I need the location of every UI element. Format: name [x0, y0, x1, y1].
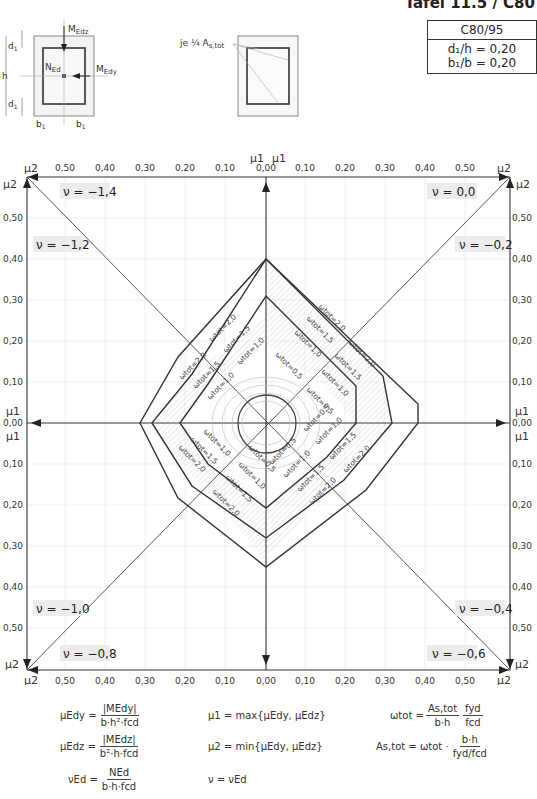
svg-text:0,40: 0,40 [512, 254, 532, 264]
concrete-class: C80/95 [428, 21, 536, 40]
svg-text:b1: b1 [76, 119, 86, 130]
nu-label-bottom-left-outer: ν = −0,8 [63, 647, 117, 661]
right-axis-ticks: 0,50 0,40 0,30 0,20 0,10 0,00 0,10 0,20 … [512, 213, 532, 633]
svg-text:0,20: 0,20 [335, 163, 355, 173]
svg-text:0,20: 0,20 [335, 676, 355, 685]
ratio-d1-h: d₁/h = 0,20 [428, 42, 536, 56]
arrow-up-icon [262, 182, 270, 192]
svg-text:0,40: 0,40 [3, 254, 23, 264]
formula-mu1: μ1 = max{μEdy, μEdz} [208, 700, 326, 730]
page-title: Tafel 11.5 / C80 [405, 0, 535, 12]
formula-block-right: ωtot = As,totb·h fydfcd As,tot = ωtot · … [390, 700, 491, 762]
svg-text:0,20: 0,20 [175, 676, 195, 685]
cross-section-sketch: MEdz MEdy NEd h d1 d1 b1 b1 [0, 0, 200, 130]
formula-omega-tot: ωtot = As,totb·h fydfcd [390, 700, 491, 730]
svg-text:0,30: 0,30 [375, 676, 395, 685]
svg-text:0,50: 0,50 [55, 676, 75, 685]
formula-mu2: μ2 = min{μEdy, μEdz} [208, 730, 326, 762]
reinforcement-sketch: je ¼ As,tot [180, 0, 380, 130]
svg-text:μ2: μ2 [515, 658, 529, 671]
nu-label-top-right-inner: ν = −0,2 [459, 238, 513, 252]
top-axis-ticks: 0,50 0,40 0,30 0,20 0,10 0,00 0,10 0,20 … [55, 163, 475, 173]
svg-text:b1: b1 [36, 119, 46, 130]
left-axis-ticks: 0,50 0,40 0,30 0,20 0,10 0,00 0,10 0,20 … [3, 213, 23, 633]
svg-text:μ1: μ1 [6, 430, 20, 443]
formula-as-tot: As,tot = ωtot · b·hfyd/fcd [376, 730, 491, 762]
svg-text:0,10: 0,10 [3, 377, 23, 387]
svg-text:μ2: μ2 [516, 178, 530, 191]
svg-text:μ1: μ1 [515, 430, 529, 443]
svg-text:0,40: 0,40 [95, 676, 115, 685]
svg-text:μ2: μ2 [497, 162, 511, 175]
svg-text:h: h [2, 71, 8, 81]
svg-text:0,40: 0,40 [95, 163, 115, 173]
svg-text:μ1: μ1 [250, 152, 264, 165]
svg-text:0,40: 0,40 [3, 582, 23, 592]
nu-label-bottom-right-inner: ν = −0,4 [459, 602, 513, 616]
formula-block-middle: μ1 = max{μEdy, μEdz} μ2 = min{μEdy, μEdz… [208, 700, 326, 796]
svg-text:0,30: 0,30 [135, 676, 155, 685]
svg-text:0,40: 0,40 [415, 163, 435, 173]
svg-text:0,50: 0,50 [3, 213, 23, 223]
svg-text:μ1: μ1 [249, 684, 263, 685]
nu-label-bottom-left-inner: ν = −1,0 [36, 602, 90, 616]
arrow-down-icon [262, 655, 270, 665]
svg-text:μ2: μ2 [24, 674, 38, 685]
svg-text:0,50: 0,50 [455, 163, 475, 173]
ratio-b1-b: b₁/b = 0,20 [428, 56, 536, 70]
formula-mu-edz: μEdz = |MEdz|b²·h·fcd [60, 730, 143, 762]
label-medz: MEdz [68, 24, 89, 36]
svg-text:0,20: 0,20 [3, 336, 23, 346]
svg-text:μ2: μ2 [24, 162, 38, 175]
material-info-box: C80/95 d₁/h = 0,20 b₁/b = 0,20 [427, 20, 537, 74]
svg-text:μ1: μ1 [515, 405, 529, 418]
svg-text:0,10: 0,10 [295, 163, 315, 173]
nu-label-bottom-right-outer: ν = −0,6 [432, 647, 486, 661]
formula-mu-edy: μEdy = |MEdy|b·h²·fcd [60, 700, 143, 730]
svg-text:0,20: 0,20 [175, 163, 195, 173]
svg-text:0,20: 0,20 [512, 336, 532, 346]
svg-text:0,10: 0,10 [295, 676, 315, 685]
svg-text:0,30: 0,30 [512, 541, 532, 551]
svg-text:0,10: 0,10 [3, 459, 23, 469]
formula-block-left: μEdy = |MEdy|b·h²·fcd μEdz = |MEdz|b²·h·… [60, 700, 143, 796]
formula-nu-ed: νEd = NEdb·h·fcd [60, 762, 143, 796]
svg-text:0,00: 0,00 [3, 418, 23, 428]
svg-text:0,30: 0,30 [512, 295, 532, 305]
reinforcement-note: je ¼ As,tot [180, 38, 225, 50]
nu-label-top-left-inner: ν = −1,2 [36, 238, 90, 252]
svg-text:0,10: 0,10 [215, 676, 235, 685]
nu-label-top-right-outer: ν = 0,0 [432, 185, 475, 199]
svg-text:0,10: 0,10 [215, 163, 235, 173]
svg-text:0,10: 0,10 [512, 377, 532, 387]
bottom-axis-ticks: 0,50 0,40 0,30 0,20 0,10 0,00 0,10 0,20 … [55, 676, 475, 685]
svg-text:0,40: 0,40 [512, 582, 532, 592]
svg-text:0,30: 0,30 [135, 163, 155, 173]
interaction-diagram: 0,50 0,40 0,30 0,20 0,10 0,00 0,10 0,20 … [0, 140, 535, 685]
svg-text:0,50: 0,50 [55, 163, 75, 173]
svg-text:d1: d1 [8, 41, 18, 52]
formula-nu: ν = νEd [208, 762, 326, 796]
arrow-right-icon [496, 419, 506, 427]
svg-text:0,00: 0,00 [512, 418, 532, 428]
svg-text:μ2: μ2 [5, 658, 19, 671]
svg-text:μ2: μ2 [3, 178, 17, 191]
svg-text:μ1: μ1 [272, 684, 286, 685]
label-medy: MEdy [96, 64, 117, 76]
svg-text:0,30: 0,30 [375, 163, 395, 173]
svg-text:0,50: 0,50 [512, 213, 532, 223]
arrow-left-icon [31, 419, 41, 427]
svg-text:0,20: 0,20 [3, 500, 23, 510]
svg-text:0,10: 0,10 [512, 459, 532, 469]
svg-text:0,50: 0,50 [455, 676, 475, 685]
svg-text:μ1: μ1 [6, 405, 20, 418]
svg-text:0,30: 0,30 [3, 541, 23, 551]
svg-text:d1: d1 [8, 99, 18, 110]
svg-text:0,50: 0,50 [512, 623, 532, 633]
svg-text:0,20: 0,20 [512, 500, 532, 510]
svg-text:0,50: 0,50 [3, 623, 23, 633]
nu-label-top-left-outer: ν = −1,4 [63, 185, 117, 199]
svg-text:μ2: μ2 [497, 674, 511, 685]
svg-text:0,30: 0,30 [3, 295, 23, 305]
svg-text:0,40: 0,40 [415, 676, 435, 685]
